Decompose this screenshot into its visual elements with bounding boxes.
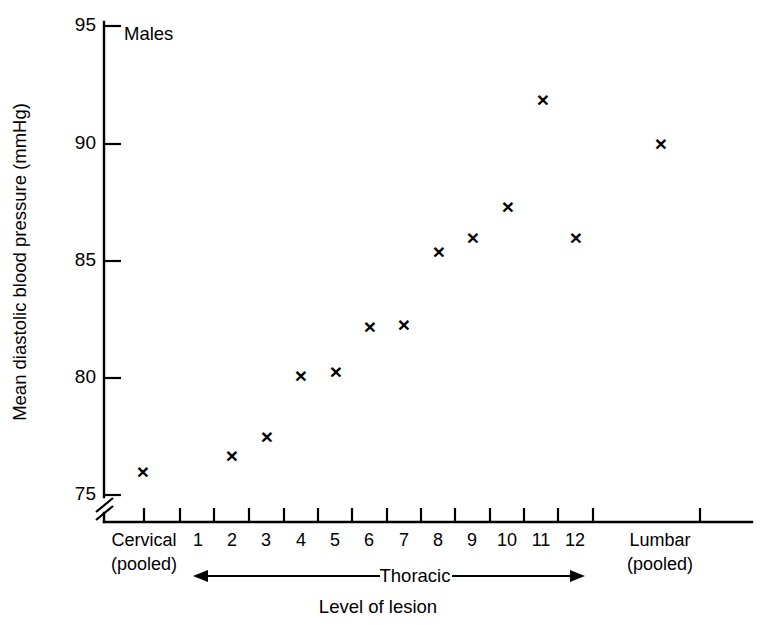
data-point-marker: × xyxy=(467,226,479,249)
y-tick-95: 95 xyxy=(75,14,121,35)
x-tick-label-t12: 12 xyxy=(565,530,585,550)
y-tick-group: 75 80 85 90 95 xyxy=(75,14,121,504)
chart-container: 75 80 85 90 95 Mean diastolic blood pres… xyxy=(0,0,765,625)
x-tick-label-t11: 11 xyxy=(532,530,551,550)
y-axis-title: Mean diastolic blood pressure (mmHg) xyxy=(9,103,30,421)
y-tick-label: 80 xyxy=(75,366,96,387)
data-point-marker: × xyxy=(137,460,149,483)
x-axis-title: Level of lesion xyxy=(319,596,437,617)
x-tick-label-cervical: Cervical (pooled) xyxy=(111,530,177,574)
y-tick-label: 85 xyxy=(75,249,96,270)
thoracic-arrow-right-head xyxy=(570,570,585,582)
x-tick-label-lumbar: Lumbar (pooled) xyxy=(627,530,693,574)
y-tick-80: 80 xyxy=(75,366,121,387)
data-point-marker: × xyxy=(502,195,514,218)
y-tick-85: 85 xyxy=(75,249,121,270)
data-point-marker: × xyxy=(570,226,582,249)
y-tick-75: 75 xyxy=(75,483,121,504)
y-tick-90: 90 xyxy=(75,132,121,153)
x-tick-label-line2: (pooled) xyxy=(111,554,177,574)
thoracic-range-annotation: Thoracic xyxy=(193,565,585,586)
x-tick-label-t5: 5 xyxy=(330,530,340,550)
data-point-marker: × xyxy=(226,444,238,467)
x-tick-label-t3: 3 xyxy=(261,530,271,550)
x-tick-label-t9: 9 xyxy=(467,530,477,550)
y-tick-label: 75 xyxy=(75,483,96,504)
x-tick-label-t6: 6 xyxy=(364,530,374,550)
panel-label: Males xyxy=(124,23,173,44)
x-tick-group xyxy=(144,508,700,522)
x-tick-label-t2: 2 xyxy=(227,530,237,550)
thoracic-arrow-left-head xyxy=(193,570,208,582)
x-tick-label-line2: (pooled) xyxy=(627,554,693,574)
y-axis-break-slash-upper xyxy=(96,498,113,512)
x-tick-label-line1: Lumbar xyxy=(629,530,690,550)
data-point-marker: × xyxy=(537,88,549,111)
x-tick-label-t7: 7 xyxy=(399,530,409,550)
data-point-marker: × xyxy=(433,240,445,263)
x-tick-label-t8: 8 xyxy=(433,530,443,550)
data-point-marker: × xyxy=(295,364,307,387)
x-tick-label-t1: 1 xyxy=(193,530,203,550)
thoracic-annotation-label: Thoracic xyxy=(380,565,451,586)
data-point-marker: × xyxy=(398,313,410,336)
data-point-marker: × xyxy=(364,315,376,338)
y-tick-label: 90 xyxy=(75,132,96,153)
y-axis xyxy=(96,22,113,522)
x-tick-label-line1: Cervical xyxy=(111,530,176,550)
data-point-marker: × xyxy=(261,425,273,448)
x-tick-label-t10: 10 xyxy=(497,530,517,550)
data-point-marker: × xyxy=(655,132,667,155)
data-point-marker: × xyxy=(330,360,342,383)
x-tick-label-t4: 4 xyxy=(296,530,306,550)
scatter-plot: 75 80 85 90 95 Mean diastolic blood pres… xyxy=(0,0,765,625)
data-point-series: × × × × × × × × × × × × × xyxy=(137,88,667,484)
y-tick-label: 95 xyxy=(75,14,96,35)
